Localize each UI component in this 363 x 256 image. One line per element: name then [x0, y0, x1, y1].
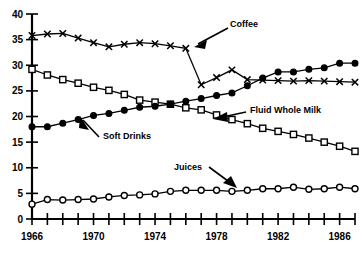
data-point [167, 188, 173, 194]
data-point [152, 103, 158, 109]
data-point [91, 196, 97, 202]
data-point [60, 120, 66, 126]
coffee-arrow [194, 28, 228, 49]
series-coffee [29, 30, 358, 88]
data-point [121, 91, 127, 97]
y-tick-label: 40 [12, 9, 24, 20]
data-point [183, 187, 189, 193]
beverage-consumption-chart: 0510152025303540 19661970197419781982198… [0, 0, 363, 256]
data-point [106, 111, 112, 117]
data-point [137, 104, 143, 110]
data-point [29, 66, 35, 72]
data-point [290, 184, 296, 190]
data-point [121, 192, 127, 198]
data-point [321, 65, 327, 71]
data-point [337, 60, 343, 66]
data-point [275, 128, 281, 134]
y-tick-label: 10 [12, 162, 24, 173]
data-point [260, 186, 266, 192]
series-juices [29, 184, 358, 207]
data-point [29, 201, 35, 207]
y-tick-label: 35 [12, 34, 24, 45]
data-point [306, 135, 312, 141]
data-point [214, 187, 220, 193]
data-point [214, 93, 220, 99]
annotation-label-coffee: Coffee [230, 19, 258, 29]
x-axis-tick-labels: 196619701974197819821986 [21, 231, 351, 242]
x-tick-label: 1966 [21, 231, 44, 242]
data-point [198, 96, 204, 102]
data-point [291, 69, 297, 75]
y-tick-label: 0 [17, 214, 23, 225]
data-point [275, 186, 281, 192]
juices-arrow [209, 167, 237, 188]
data-point [183, 98, 189, 104]
data-point [337, 143, 343, 149]
data-point [229, 90, 235, 96]
data-point [44, 124, 50, 130]
data-point [321, 139, 327, 145]
data-series-group [29, 30, 358, 207]
data-point [352, 148, 358, 154]
data-point [44, 72, 50, 78]
data-point [198, 82, 204, 88]
x-tick-label: 1974 [144, 231, 167, 242]
data-point [244, 83, 250, 89]
data-point [44, 197, 50, 203]
x-tick-label: 1970 [82, 231, 105, 242]
data-point [260, 125, 266, 131]
y-tick-label: 5 [17, 188, 23, 199]
data-point [91, 113, 97, 119]
data-point [198, 187, 204, 193]
data-point [306, 186, 312, 192]
data-point [198, 107, 204, 113]
data-point [244, 121, 250, 127]
soft-drinks-arrow [79, 116, 99, 137]
data-point [137, 192, 143, 198]
data-point [106, 194, 112, 200]
y-tick-label: 25 [12, 85, 24, 96]
data-point [75, 80, 81, 86]
data-point [275, 69, 281, 75]
y-tick-label: 30 [12, 60, 24, 71]
data-point [75, 197, 81, 203]
data-point [229, 116, 235, 122]
data-point [152, 191, 158, 197]
y-axis-tick-labels: 0510152025303540 [12, 9, 24, 225]
annotation-arrows [79, 28, 246, 188]
data-point [229, 67, 235, 73]
data-point [290, 131, 296, 137]
data-point [229, 188, 235, 194]
data-point [60, 77, 66, 83]
y-tick-label: 20 [12, 111, 24, 122]
data-point [60, 197, 66, 203]
annotation-label-juices: Juices [174, 162, 202, 172]
data-point [352, 60, 358, 66]
x-tick-label: 1982 [267, 231, 290, 242]
annotation-label-soft-drinks: Soft Drinks [103, 131, 151, 141]
data-point [183, 105, 189, 111]
data-point [137, 97, 143, 103]
data-point [352, 186, 358, 192]
data-point [306, 66, 312, 72]
x-tick-label: 1986 [328, 231, 351, 242]
data-point [168, 101, 174, 107]
x-tick-label: 1978 [205, 231, 228, 242]
y-tick-label: 15 [12, 137, 24, 148]
series-annotations: CoffeeFluid Whole MilkSoft DrinksJuices [103, 19, 322, 172]
data-point [213, 74, 219, 80]
annotation-label-fluid-whole-milk: Fluid Whole Milk [250, 105, 322, 115]
chart-canvas: 0510152025303540 19661970197419781982198… [0, 0, 363, 256]
data-point [90, 84, 96, 90]
data-point [337, 184, 343, 190]
data-point [121, 107, 127, 113]
data-point [244, 187, 250, 193]
series-soft-drinks [29, 60, 358, 129]
data-point [106, 87, 112, 93]
data-point [321, 186, 327, 192]
data-point [29, 124, 35, 130]
data-point [260, 75, 266, 81]
